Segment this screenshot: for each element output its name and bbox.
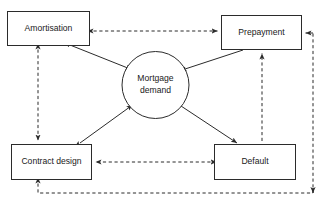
- edge-amortisation-mortgage: [70, 45, 132, 70]
- node-default-label: Default: [241, 156, 269, 166]
- node-prepayment[interactable]: Prepayment: [222, 16, 302, 50]
- edge-mortgage-default: [180, 105, 238, 143]
- node-prepayment-label: Prepayment: [238, 27, 285, 37]
- diagram-canvas: Amortisation Prepayment Mortgage demand …: [0, 0, 327, 205]
- node-amortisation-label: Amortisation: [25, 23, 73, 33]
- node-mortgage-demand-label-line2: demand: [140, 85, 171, 95]
- node-amortisation[interactable]: Amortisation: [8, 12, 90, 46]
- node-contract-design-label: Contract design: [21, 156, 81, 166]
- node-mortgage-demand[interactable]: Mortgage demand: [122, 52, 189, 119]
- node-contract-design[interactable]: Contract design: [12, 145, 92, 180]
- edge-prepayment-mortgage: [181, 50, 244, 71]
- node-mortgage-demand-label-line1: Mortgage: [137, 73, 174, 83]
- diagram-svg: Amortisation Prepayment Mortgage demand …: [0, 0, 327, 205]
- edge-contract-mortgage: [80, 105, 133, 143]
- node-default[interactable]: Default: [215, 145, 296, 180]
